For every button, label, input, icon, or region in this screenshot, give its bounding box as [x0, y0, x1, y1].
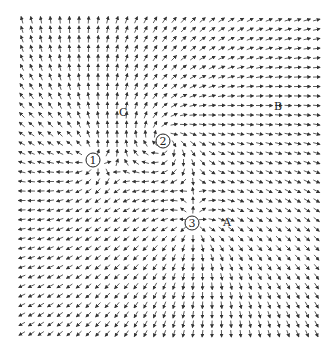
- field-arrow: [209, 227, 215, 231]
- field-arrow: [114, 218, 120, 222]
- field-arrow: [47, 162, 54, 164]
- field-arrow: [173, 302, 175, 309]
- field-arrow: [209, 151, 215, 155]
- field-arrow: [47, 152, 53, 155]
- field-arrow: [296, 283, 300, 289]
- field-arrow: [237, 28, 243, 31]
- field-arrow: [28, 294, 34, 297]
- field-arrow: [209, 56, 215, 59]
- field-arrow: [59, 93, 62, 99]
- field-arrow: [199, 66, 205, 69]
- field-arrow: [256, 152, 263, 154]
- field-arrow: [133, 209, 139, 212]
- field-arrow: [135, 17, 138, 23]
- field-arrow: [247, 57, 254, 59]
- field-arrow: [286, 283, 290, 289]
- field-arrow: [218, 161, 224, 164]
- field-arrow: [173, 292, 175, 299]
- field-arrow: [294, 58, 301, 59]
- field-arrow: [294, 115, 301, 116]
- field-arrow: [153, 36, 157, 42]
- field-arrow: [230, 292, 231, 299]
- field-arrow: [267, 255, 271, 261]
- field-arrow: [114, 189, 120, 193]
- field-arrow: [66, 209, 73, 212]
- field-arrow: [105, 302, 110, 307]
- field-arrow: [256, 57, 263, 59]
- field-arrow: [162, 103, 167, 108]
- field-arrow: [58, 102, 61, 108]
- field-arrow: [38, 303, 44, 307]
- field-arrow: [182, 169, 184, 176]
- field-arrow: [124, 218, 130, 222]
- field-arrow: [125, 312, 129, 318]
- field-arrow: [144, 112, 147, 119]
- field-arrow: [212, 283, 213, 290]
- field-arrow: [200, 151, 205, 156]
- field-arrow: [296, 330, 299, 337]
- field-arrow: [57, 284, 63, 288]
- field-arrow: [57, 162, 64, 164]
- field-arrow: [257, 227, 262, 231]
- field-arrow: [107, 140, 108, 147]
- field-arrow: [60, 36, 61, 43]
- field-arrow: [162, 46, 166, 51]
- field-arrow: [313, 189, 319, 192]
- field-arrow: [105, 246, 111, 250]
- field-arrow: [294, 180, 300, 183]
- field-arrow: [231, 321, 232, 328]
- field-arrow: [304, 133, 311, 134]
- field-arrow: [124, 283, 128, 288]
- field-arrow: [152, 236, 157, 241]
- field-arrow: [116, 36, 118, 43]
- field-arrow: [107, 121, 108, 128]
- field-arrow: [154, 330, 157, 336]
- field-arrow: [29, 112, 34, 117]
- field-arrow: [135, 26, 138, 32]
- field-arrow: [276, 236, 281, 241]
- field-arrow: [181, 199, 187, 203]
- field-arrow: [295, 199, 301, 203]
- field-arrow: [107, 64, 108, 71]
- field-arrow: [277, 274, 281, 280]
- field-arrow: [19, 304, 25, 307]
- field-arrow: [193, 188, 194, 195]
- field-arrow: [285, 124, 292, 125]
- field-arrow: [28, 266, 35, 269]
- field-arrow: [78, 112, 81, 119]
- field-arrow: [171, 84, 176, 88]
- field-arrow: [249, 292, 251, 299]
- field-arrow: [314, 208, 320, 212]
- field-arrow: [313, 152, 320, 154]
- field-arrow: [60, 17, 61, 24]
- field-arrow: [67, 141, 72, 145]
- field-arrow: [314, 274, 318, 280]
- field-arrow: [107, 55, 108, 62]
- field-arrow: [144, 17, 147, 23]
- field-arrow: [60, 26, 61, 33]
- field-arrow: [171, 114, 177, 117]
- field-arrow: [285, 189, 291, 192]
- field-arrow: [30, 45, 32, 52]
- field-arrow: [153, 103, 157, 109]
- field-arrow: [144, 283, 148, 289]
- field-arrow: [237, 18, 243, 21]
- field-arrow: [268, 311, 270, 318]
- field-arrow: [153, 283, 156, 289]
- field-arrow: [181, 141, 186, 146]
- field-arrow: [181, 27, 186, 32]
- field-arrow: [152, 209, 159, 211]
- field-arrow: [294, 171, 300, 174]
- field-arrow: [248, 245, 252, 250]
- field-arrow: [40, 45, 42, 52]
- field-arrow: [294, 48, 301, 49]
- field-arrow: [105, 265, 110, 270]
- field-arrow: [276, 255, 280, 260]
- field-arrow: [183, 264, 185, 271]
- field-arrow: [181, 37, 186, 42]
- field-arrow: [78, 93, 80, 100]
- field-arrow: [218, 133, 225, 135]
- field-arrow: [209, 133, 216, 135]
- field-arrow: [294, 161, 301, 163]
- field-arrow: [126, 83, 128, 90]
